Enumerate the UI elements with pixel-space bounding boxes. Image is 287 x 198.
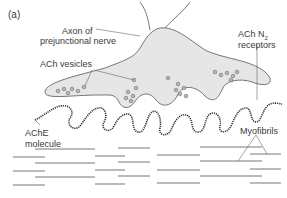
panel-label: (a) bbox=[8, 10, 20, 20]
axon-label-line1: Axon of bbox=[62, 26, 93, 36]
vesicles-label: ACh vesicles bbox=[40, 59, 92, 69]
ache-label-line1: AChE bbox=[25, 128, 49, 138]
axon-outline bbox=[140, 2, 190, 30]
myofibrils-label: Myofibrils bbox=[240, 126, 278, 136]
ache-label-line2: molecule bbox=[25, 139, 61, 149]
axon-label-line2: prejunctional nerve bbox=[40, 36, 116, 46]
receptors-label-line2: receptors bbox=[238, 40, 276, 50]
myofibrils bbox=[13, 147, 281, 185]
